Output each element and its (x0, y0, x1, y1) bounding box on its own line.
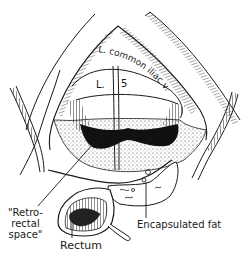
vertebra-label-5: 5 (121, 79, 127, 89)
retrorectal-line-3: space" (8, 229, 43, 240)
retrorectal-space-label: "Retro- rectal space" (8, 207, 43, 240)
retrorectal-line-2: rectal (8, 218, 43, 229)
rectum-label: Rectum (60, 240, 102, 251)
encapsulated-fat-label: Encapsulated fat (137, 220, 221, 230)
anatomical-figure: L. common iliac v. L. 5 "Retro- rectal s… (0, 0, 250, 256)
stippled-tissue (54, 119, 206, 172)
rectum-tag (108, 224, 130, 241)
vertebra-label-L: L. (96, 80, 105, 90)
retrorectal-line-1: "Retro- (8, 207, 43, 218)
outer-incision-edges (26, 12, 240, 130)
